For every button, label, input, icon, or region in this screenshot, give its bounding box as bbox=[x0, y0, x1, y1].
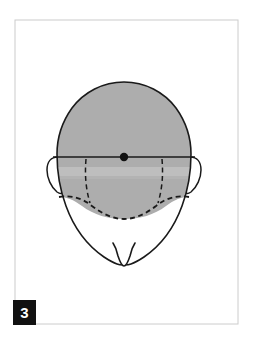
figure-container: 3 bbox=[0, 0, 254, 348]
head-diagram-svg bbox=[0, 0, 254, 348]
plate-number-badge: 3 bbox=[13, 300, 36, 325]
center-reference-point bbox=[120, 153, 128, 161]
plate-number-label: 3 bbox=[20, 305, 28, 320]
